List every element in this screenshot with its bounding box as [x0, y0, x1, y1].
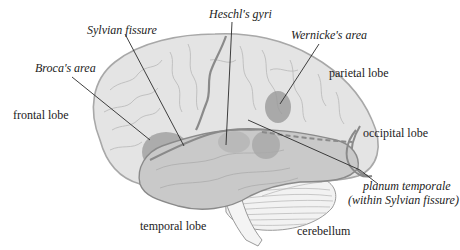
label-planum-temporale: planum temporale — [363, 180, 451, 193]
label-brocas-area: Broca's area — [35, 62, 96, 75]
wernickes-area-highlight — [265, 91, 291, 123]
label-sylvian-fissure: Sylvian fissure — [87, 24, 157, 37]
label-parietal-lobe: parietal lobe — [329, 67, 389, 80]
label-planum-temporale-note: (within Sylvian fissure) — [348, 194, 459, 207]
heschls-gyri-highlight — [218, 131, 250, 153]
label-cerebellum: cerebellum — [297, 225, 350, 238]
brain-diagram — [0, 0, 460, 250]
label-wernickes-area: Wernicke's area — [291, 29, 367, 42]
label-frontal-lobe: frontal lobe — [13, 109, 69, 122]
label-heschls-gyri: Heschl's gyri — [209, 8, 272, 21]
label-temporal-lobe: temporal lobe — [140, 220, 206, 233]
planum-temporale-highlight — [252, 131, 280, 159]
label-occipital-lobe: occipital lobe — [363, 127, 428, 140]
